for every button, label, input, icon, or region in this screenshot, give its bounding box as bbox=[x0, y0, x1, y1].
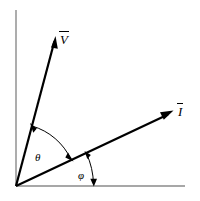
phasor-canvas bbox=[0, 0, 200, 201]
voltage-phasor-label: V bbox=[59, 31, 69, 46]
phasor-diagram-figure: V I θ φ bbox=[0, 0, 200, 201]
theta-angle-label: θ bbox=[35, 152, 40, 163]
current-phasor-label: I bbox=[177, 103, 183, 118]
current-label-text: I bbox=[177, 105, 183, 118]
phi-angle-label: φ bbox=[78, 170, 84, 181]
voltage-phasor-arrowhead bbox=[51, 36, 58, 49]
voltage-phasor-line bbox=[16, 41, 55, 186]
voltage-label-text: V bbox=[59, 33, 69, 46]
